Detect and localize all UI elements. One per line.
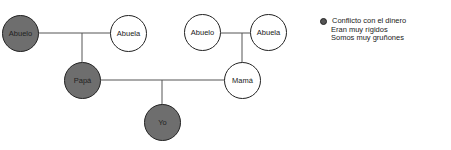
node-abuelo-paterno: Abuelo bbox=[2, 15, 39, 52]
node-label: Mamá bbox=[232, 76, 253, 85]
node-abuelo-materno: Abuelo bbox=[184, 14, 221, 51]
node-label: Abuelo bbox=[9, 29, 32, 38]
legend-line: Somos muy gruñones bbox=[331, 34, 406, 43]
node-abuela-paterna: Abuela bbox=[110, 15, 147, 52]
legend: Conflicto con el dinero Eran muy rígidos… bbox=[331, 17, 406, 43]
node-label: Abuelo bbox=[191, 28, 214, 37]
node-abuela-materna: Abuela bbox=[250, 14, 287, 51]
node-mama: Mamá bbox=[224, 62, 261, 99]
node-label: Papá bbox=[74, 76, 92, 85]
node-label: Yo bbox=[158, 118, 167, 127]
legend-marker-icon bbox=[320, 18, 327, 25]
node-yo: Yo bbox=[144, 104, 181, 141]
node-label: Abuela bbox=[117, 29, 140, 38]
node-papa: Papá bbox=[64, 62, 101, 99]
node-label: Abuela bbox=[257, 28, 280, 37]
